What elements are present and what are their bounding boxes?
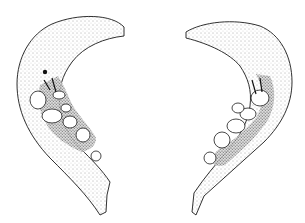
right-mandible xyxy=(152,0,305,223)
left-mandible xyxy=(0,0,152,223)
illustration xyxy=(0,0,305,223)
